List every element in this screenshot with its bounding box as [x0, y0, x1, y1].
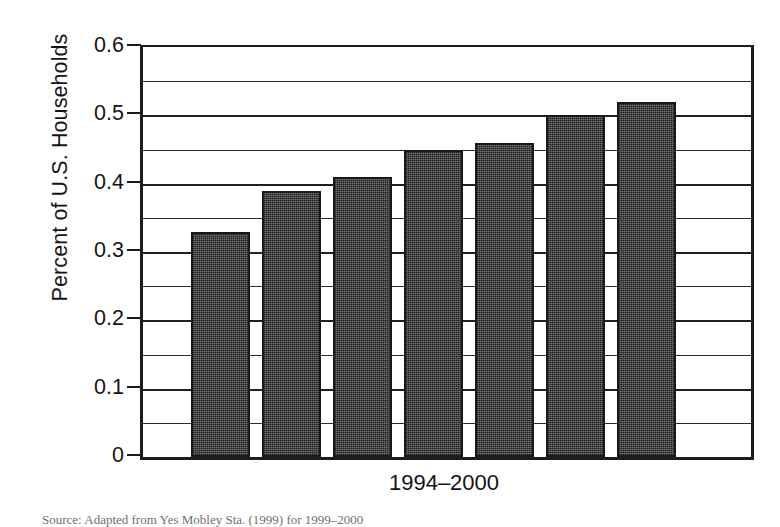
- plot-area: [140, 45, 754, 460]
- bar: [333, 177, 392, 457]
- y-axis-tick-mark: [127, 181, 141, 183]
- y-axis-tick-mark: [127, 454, 141, 456]
- bar: [262, 191, 321, 458]
- y-axis-tick-mark: [127, 44, 141, 46]
- bar-chart-figure: Percent of U.S. Households 00.10.20.30.4…: [0, 0, 780, 527]
- bar: [617, 102, 676, 457]
- bar: [546, 115, 605, 457]
- y-axis-tick-mark: [127, 249, 141, 251]
- bar: [404, 150, 463, 458]
- bar-series: [143, 47, 751, 457]
- y-axis-tick-mark: [127, 317, 141, 319]
- bar: [475, 143, 534, 457]
- y-axis-tick-mark: [127, 386, 141, 388]
- source-caption: Source: Adapted from Yes Mobley Sta. (19…: [42, 512, 742, 527]
- x-axis-label: 1994–2000: [140, 470, 748, 496]
- bar: [191, 232, 250, 458]
- y-axis-tick-mark: [127, 112, 141, 114]
